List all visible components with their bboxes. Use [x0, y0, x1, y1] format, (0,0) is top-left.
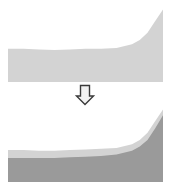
- arrow-down-glyph: [77, 86, 94, 105]
- area-chart-before: [0, 0, 172, 88]
- stacked-area-chart-after: [0, 106, 172, 195]
- chart-panel-after: [0, 106, 172, 195]
- arrow-down-icon: [0, 84, 172, 106]
- transition-arrow-panel: [0, 84, 172, 106]
- figure-container: [0, 0, 172, 195]
- chart-panel-before: [0, 0, 172, 88]
